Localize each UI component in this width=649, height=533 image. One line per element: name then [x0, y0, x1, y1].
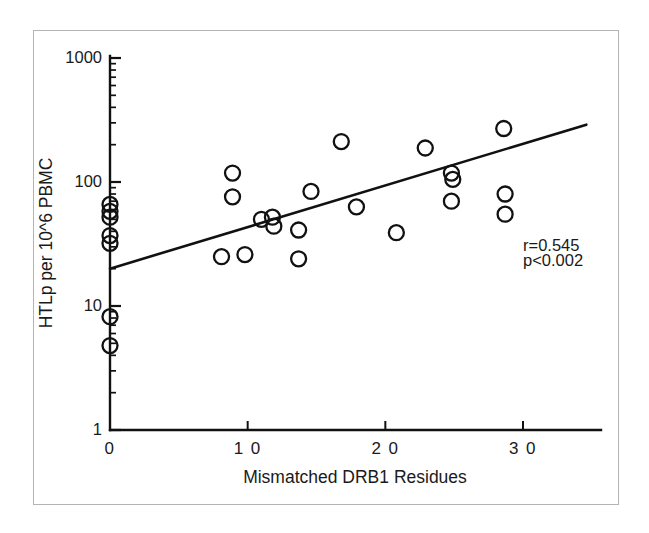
- x-axis-tick-labels: 01 02 03 0: [105, 439, 537, 458]
- scatter-point: [266, 219, 281, 234]
- scatter-point: [291, 251, 306, 266]
- figure-root: 1101001000 01 02 03 0 Mismatched DRB1 Re…: [0, 0, 649, 533]
- scatter-markers-group: [103, 121, 513, 353]
- scatter-point: [225, 166, 240, 181]
- scatter-point: [225, 189, 240, 204]
- x-tick-label: 2 0: [371, 439, 399, 458]
- scatter-point: [214, 249, 229, 264]
- scatter-plot: 1101001000 01 02 03 0 Mismatched DRB1 Re…: [0, 0, 649, 533]
- x-axis-ticks: [110, 421, 523, 430]
- x-tick-label: 1 0: [234, 439, 262, 458]
- y-axis-tick-labels: 1101001000: [65, 48, 102, 438]
- y-tick-label: 100: [74, 172, 102, 190]
- scatter-point: [303, 184, 318, 199]
- scatter-point: [444, 194, 459, 209]
- x-tick-label: 0: [105, 439, 116, 458]
- scatter-point: [334, 134, 349, 149]
- y-axis-title: HTLp per 10^6 PBMC: [36, 158, 56, 329]
- scatter-point: [498, 187, 513, 202]
- annotation-pvalue: p<0.002: [523, 251, 583, 269]
- statistics-annotations: r=0.545p<0.002: [523, 236, 583, 268]
- scatter-point: [349, 199, 364, 214]
- scatter-point: [498, 207, 513, 222]
- scatter-point: [291, 223, 306, 238]
- scatter-point: [496, 121, 511, 136]
- x-axis-title: Mismatched DRB1 Residues: [243, 467, 467, 487]
- scatter-point: [237, 247, 252, 262]
- scatter-point: [389, 225, 404, 240]
- x-tick-label: 3 0: [509, 439, 537, 458]
- y-tick-label: 1000: [65, 48, 102, 66]
- scatter-point: [418, 141, 433, 156]
- y-tick-label: 1: [93, 420, 102, 438]
- y-tick-label: 10: [84, 296, 102, 314]
